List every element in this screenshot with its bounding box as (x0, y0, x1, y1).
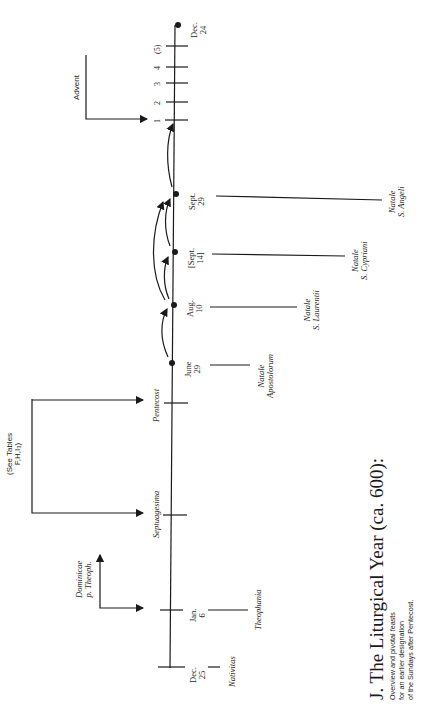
date-day: 10 (195, 300, 204, 317)
date-label-dec24: Dec. 24 (190, 22, 208, 38)
subtitle-line2: for an earlier designation (397, 600, 406, 700)
feast-cypriani: Natale S. Cypriani (351, 241, 369, 280)
advent-sunday-4: 4 (154, 66, 162, 70)
annotation-line2: F,H,I₃) (14, 433, 22, 475)
annotation-see-tables: (See Tables F,H,I₃) (6, 433, 23, 475)
feast-nativitas: Nativitas (228, 656, 237, 687)
date-label-jan6: Jan. 6 (189, 609, 207, 622)
advent-sunday-3: 3 (154, 82, 162, 86)
feast-theophania: Theophania (254, 589, 263, 630)
feast-laurentii: Natale S. Laurentii (303, 290, 321, 330)
dot-aug10 (171, 302, 177, 308)
annotation-dominicae: Dominicae p. Theoph. (75, 561, 93, 598)
dot-dec24 (175, 22, 181, 28)
liturgical-year-diagram (0, 0, 424, 710)
feast-apostolorum: Natale Apostolorum (257, 354, 275, 398)
date-day: 25 (198, 667, 207, 683)
figure-title: J. The Liturgical Year (ca. 600): (367, 458, 387, 700)
arrow-june-to-aug (162, 309, 168, 357)
advent-sunday-1: 1 (154, 119, 162, 123)
see-tables-bracket-top (32, 399, 143, 513)
date-label-dec25: Dec. 25 (189, 667, 207, 683)
arrow-aug-to-sept29 (153, 202, 165, 300)
date-day: 29 (197, 193, 206, 210)
date-day: 14] (196, 248, 205, 268)
date-label-sept14: [Sept. 14] (187, 248, 205, 268)
date-day: 24 (199, 22, 208, 38)
feast-line2: S. Cypriani (360, 241, 369, 280)
timeline-axis (170, 25, 175, 668)
advent-arrow (86, 55, 147, 119)
feast-line-cypriani (212, 254, 345, 256)
dominicae-arrow (100, 556, 143, 608)
arrow-aug-to-sept14-inner (164, 257, 169, 299)
date-day: 29 (193, 361, 202, 377)
arrow-sept14-to-sept29 (166, 199, 171, 246)
dot-sept14 (172, 249, 178, 255)
label-pentecost: Pentecost (152, 389, 161, 422)
advent-sunday-2: 2 (154, 101, 162, 105)
date-day: 6 (198, 609, 207, 622)
advent-sunday-5: (5) (154, 45, 162, 54)
date-label-june29: June 29 (184, 361, 202, 377)
figure-subtitle: Overview and pivotal feasts for an earli… (388, 600, 415, 700)
subtitle-line1: Overview and pivotal feasts (388, 600, 397, 700)
feast-line-angeli (216, 196, 382, 200)
feast-angeli: Natale S. Angeli (388, 186, 406, 217)
feast-line2: S. Angeli (397, 186, 406, 217)
annotation-advent: Advent (73, 75, 81, 100)
dot-sept29 (173, 191, 179, 197)
subtitle-line3: of the Sundays after Pentecost. (406, 600, 415, 700)
feast-line2: Apostolorum (266, 354, 275, 398)
date-label-sept29: Sept. 29 (188, 193, 206, 210)
label-septuagesima: Septuagesima (152, 491, 161, 538)
feast-line2: S. Laurentii (312, 290, 321, 330)
arrow-sept29-to-advent1 (168, 124, 173, 187)
annotation-line2: p. Theoph. (84, 561, 93, 598)
date-label-aug10: Aug. 10 (186, 300, 204, 317)
dot-june29 (169, 360, 175, 366)
